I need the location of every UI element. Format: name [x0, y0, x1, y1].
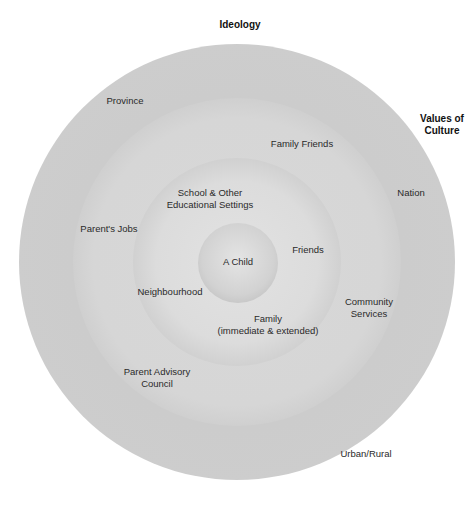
label-family-friends: Family Friends: [262, 138, 342, 150]
label-parents-jobs: Parent's Jobs: [74, 223, 144, 235]
label-community-services: Community Services: [334, 296, 404, 320]
label-a-child: A Child: [212, 256, 264, 268]
label-ideology: Ideology: [210, 19, 270, 31]
label-neighbourhood: Neighbourhood: [130, 286, 210, 298]
label-family: Family (immediate & extended): [208, 313, 328, 337]
label-values-of-culture: Values of Culture: [410, 113, 474, 137]
label-friends: Friends: [283, 244, 333, 256]
label-province: Province: [95, 95, 155, 107]
ecological-systems-diagram: Ideology Values of Culture Province Nati…: [0, 0, 475, 506]
label-nation: Nation: [386, 187, 436, 199]
label-parent-advisory-council: Parent Advisory Council: [117, 366, 197, 390]
label-school-educational-settings: School & Other Educational Settings: [155, 187, 265, 211]
label-urban-rural: Urban/Rural: [331, 448, 401, 460]
